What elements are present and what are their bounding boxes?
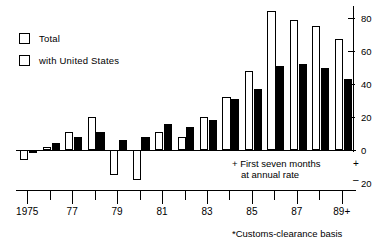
note-line-1: + First seven months (232, 158, 320, 169)
x-tick-79 (117, 191, 118, 204)
x-label-81: 81 (156, 206, 167, 217)
x-label-87: 87 (291, 206, 302, 217)
bar-77-with-united-states (74, 137, 82, 150)
bar-82-with-united-states (186, 127, 194, 150)
x-tick-81 (162, 191, 163, 204)
y-label-negative-20: 20 (361, 178, 372, 189)
bar-chart: Total with United States 020406080+–20 1… (0, 0, 392, 246)
x-tick-83 (207, 191, 208, 204)
x-tick-89+ (342, 191, 343, 204)
x-tick-84 (229, 191, 230, 200)
y-axis-minus-sign: – (353, 174, 359, 185)
bar-83-with-united-states (209, 120, 217, 150)
bar-89+-with-united-states (344, 79, 352, 150)
bar-87-total (290, 20, 298, 150)
y-axis-plus-sign: + (353, 158, 359, 169)
bar-76-with-united-states (52, 143, 60, 150)
x-tick-76 (50, 191, 51, 200)
bar-85-with-united-states (254, 89, 262, 150)
x-tick-87 (297, 191, 298, 204)
y-tick-80 (348, 18, 355, 19)
y-tick-60 (348, 51, 355, 52)
bar-78-total (88, 117, 96, 150)
bar-84-total (222, 97, 230, 150)
bar-83-total (200, 117, 208, 150)
bar-82-total (178, 137, 186, 150)
x-label-83: 83 (201, 206, 212, 217)
bar-84-with-united-states (231, 99, 239, 150)
bar-78-with-united-states (96, 132, 104, 150)
y-axis-line (353, 6, 354, 152)
bar-86-total (267, 11, 275, 150)
x-tick-78 (95, 191, 96, 200)
bar-76-total (43, 147, 51, 150)
bar-81-with-united-states (164, 124, 172, 150)
first-seven-months-note: + First seven months at annual rate (232, 158, 320, 180)
bar-80-with-united-states (141, 137, 149, 150)
x-tick-80 (140, 191, 141, 200)
x-tick-85 (252, 191, 253, 204)
bar-1975-total (20, 150, 28, 160)
x-tick-88 (319, 191, 320, 200)
bar-81-total (155, 132, 163, 150)
zero-baseline (16, 150, 356, 151)
bar-89+-total (335, 39, 343, 150)
y-tick-20 (348, 117, 355, 118)
y-tick-0 (348, 150, 355, 151)
bar-79-total (110, 150, 118, 175)
bar-86-with-united-states (276, 66, 284, 150)
x-label-1975: 1975 (16, 206, 38, 217)
bar-85-total (245, 71, 253, 150)
bar-88-with-united-states (321, 68, 329, 151)
bar-77-total (65, 132, 73, 150)
x-tick-86 (274, 191, 275, 200)
bar-87-with-united-states (299, 64, 307, 150)
bar-80-total (133, 150, 141, 180)
y-label-40: 40 (361, 79, 372, 90)
bar-88-total (312, 26, 320, 150)
x-label-77: 77 (67, 206, 78, 217)
bar-1975-with-united-states (29, 150, 37, 153)
x-tick-77 (72, 191, 73, 204)
y-label-20: 20 (361, 112, 372, 123)
note-line-2: at annual rate (232, 169, 320, 180)
bar-79-with-united-states (119, 140, 127, 150)
y-label-0: 0 (361, 145, 366, 156)
y-label-60: 60 (361, 46, 372, 57)
y-label-80: 80 (361, 13, 372, 24)
customs-clearance-footnote: *Customs-clearance basis (232, 228, 342, 239)
x-tick-82 (185, 191, 186, 200)
y-tick-40 (348, 84, 355, 85)
x-label-85: 85 (246, 206, 257, 217)
x-label-79: 79 (112, 206, 123, 217)
x-label-89+: 89+ (333, 206, 350, 217)
x-tick-1975 (27, 191, 28, 204)
x-axis-line (16, 190, 356, 191)
